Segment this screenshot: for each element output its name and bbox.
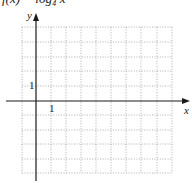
x-axis-label: x xyxy=(184,104,189,116)
x-tick-label: 1 xyxy=(49,102,55,114)
y-axis-label: y xyxy=(27,9,32,21)
y-axis-arrow-icon xyxy=(33,13,39,21)
coordinate-grid xyxy=(0,0,192,183)
grid-lines xyxy=(22,27,172,173)
y-tick-label: 1 xyxy=(29,79,35,91)
